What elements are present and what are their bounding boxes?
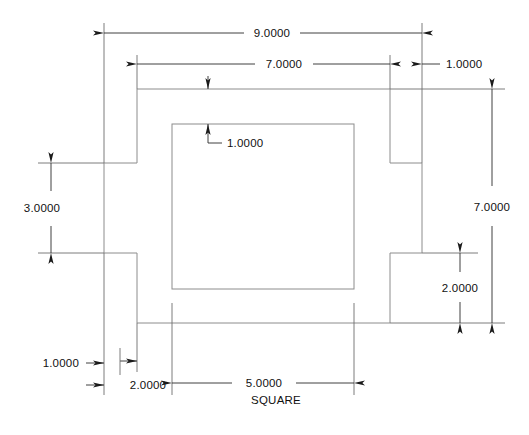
dim-note-square: SQUARE [251, 394, 301, 406]
dim-label-square-cutout-width: 5.0000 [246, 377, 282, 389]
dim-label-overall-width: 9.0000 [254, 27, 290, 39]
dim-label-wall-thickness-top: 1.0000 [227, 137, 263, 149]
technical-drawing: 9.0000 7.0000 1.0000 1.0000 3.0000 [0, 0, 529, 435]
dimension-square-cutout-width: 5.0000 SQUARE [172, 377, 354, 406]
dim-label-overall-height: 7.0000 [474, 201, 510, 213]
dim-label-right-tab-width: 1.0000 [446, 58, 482, 70]
drawing-canvas: 9.0000 7.0000 1.0000 1.0000 3.0000 [0, 0, 529, 435]
dim-label-bottom-offset: 1.0000 [43, 357, 79, 369]
dimension-overall-height: 7.0000 [474, 89, 510, 323]
dim-leader-1-wall [208, 137, 222, 143]
dimension-bottom-step: 2.0000 [120, 348, 166, 391]
part-outline-group [104, 89, 422, 323]
dim-label-body-width: 7.0000 [266, 58, 302, 70]
dimension-right-tab-width: 1.0000 [422, 58, 482, 70]
dimension-wall-thickness-top: 1.0000 [208, 76, 263, 149]
extension-lines-group [38, 23, 505, 395]
dim-label-left-tab-height: 3.0000 [24, 202, 60, 214]
dim-label-bottom-step: 2.0000 [130, 379, 166, 391]
dimension-left-tab-height: 3.0000 [24, 163, 60, 253]
dim-label-lower-right-height: 2.0000 [442, 282, 478, 294]
dimension-overall-width: 9.0000 [104, 27, 422, 39]
dimension-lower-right-height: 2.0000 [442, 253, 478, 323]
dimension-body-width: 7.0000 [137, 58, 390, 70]
dimension-bottom-offset: 1.0000 [43, 357, 104, 385]
